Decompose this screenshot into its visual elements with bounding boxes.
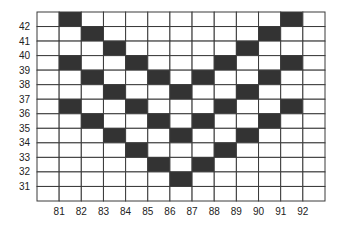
grid-cell-filled (59, 56, 81, 71)
grid-cell-empty (259, 12, 281, 27)
x-tick-label: 85 (142, 206, 154, 217)
grid-cell-empty (148, 172, 170, 187)
x-tick-label: 86 (164, 206, 176, 217)
grid-cell-empty (126, 128, 148, 143)
grid-cell-empty (170, 99, 192, 114)
grid-cell-empty (126, 85, 148, 100)
y-tick-label: 39 (19, 65, 31, 76)
grid-cell-empty (170, 114, 192, 129)
grid-cell-empty (37, 172, 59, 187)
grid-cell-empty (126, 157, 148, 172)
grid-cell-empty (259, 99, 281, 114)
grid-cells (37, 12, 325, 201)
grid-cell-filled (126, 56, 148, 71)
grid-cell-empty (236, 143, 258, 158)
grid-cell-empty (303, 27, 325, 42)
y-tick-label: 33 (19, 152, 31, 163)
grid-cell-empty (303, 143, 325, 158)
grid-cell-empty (37, 114, 59, 129)
grid-cell-empty (81, 128, 103, 143)
y-tick-label: 31 (19, 181, 31, 192)
x-axis-ticks: 818283848586878889909192 (54, 206, 309, 217)
grid-cell-empty (59, 186, 81, 201)
x-tick-label: 83 (98, 206, 110, 217)
grid-cell-empty (59, 157, 81, 172)
grid-cell-empty (148, 85, 170, 100)
grid-cell-empty (303, 186, 325, 201)
x-tick-label: 88 (209, 206, 221, 217)
grid-cell-filled (259, 70, 281, 85)
grid-cell-empty (214, 114, 236, 129)
grid-cell-filled (259, 114, 281, 129)
grid-cell-empty (192, 99, 214, 114)
grid-cell-filled (126, 99, 148, 114)
grid-cell-filled (148, 70, 170, 85)
grid-cell-empty (303, 157, 325, 172)
grid-cell-empty (236, 186, 258, 201)
grid-cell-filled (214, 99, 236, 114)
grid-cell-empty (259, 56, 281, 71)
grid-cell-empty (259, 128, 281, 143)
grid-cell-empty (81, 85, 103, 100)
grid-cell-filled (103, 128, 125, 143)
grid-cell-empty (259, 41, 281, 56)
grid-cell-filled (236, 41, 258, 56)
grid-cell-empty (259, 186, 281, 201)
grid-cell-empty (37, 128, 59, 143)
grid-cell-empty (103, 12, 125, 27)
grid-cell-filled (59, 12, 81, 27)
grid-cell-filled (281, 56, 303, 71)
grid-cell-empty (281, 85, 303, 100)
grid-cell-filled (103, 85, 125, 100)
grid-cell-empty (303, 41, 325, 56)
grid-cell-filled (170, 172, 192, 187)
grid-cell-empty (37, 27, 59, 42)
grid-cell-empty (214, 70, 236, 85)
grid-cell-empty (236, 70, 258, 85)
grid-cell-empty (103, 27, 125, 42)
grid-cell-empty (148, 12, 170, 27)
grid-cell-empty (236, 114, 258, 129)
y-tick-label: 34 (19, 137, 31, 148)
grid-cell-empty (59, 41, 81, 56)
x-tick-label: 87 (187, 206, 199, 217)
grid-cell-filled (81, 70, 103, 85)
grid-cell-empty (81, 157, 103, 172)
grid-cell-empty (303, 85, 325, 100)
grid-cell-empty (148, 143, 170, 158)
grid-cell-empty (59, 128, 81, 143)
grid-cell-filled (192, 70, 214, 85)
grid-cell-empty (192, 12, 214, 27)
grid-cell-filled (170, 85, 192, 100)
grid-cell-empty (81, 12, 103, 27)
x-tick-label: 84 (120, 206, 132, 217)
grid-cell-empty (259, 172, 281, 187)
grid-cell-empty (126, 186, 148, 201)
grid-cell-empty (103, 186, 125, 201)
grid-cell-filled (192, 157, 214, 172)
grid-cell-empty (126, 114, 148, 129)
grid-cell-empty (126, 41, 148, 56)
grid-cell-empty (281, 128, 303, 143)
grid-cell-empty (192, 186, 214, 201)
y-tick-label: 32 (19, 166, 31, 177)
grid-cell-filled (148, 157, 170, 172)
y-tick-label: 40 (19, 50, 31, 61)
grid-cell-empty (303, 114, 325, 129)
grid-cell-empty (236, 27, 258, 42)
x-tick-label: 90 (253, 206, 265, 217)
grid-cell-empty (192, 41, 214, 56)
y-tick-label: 37 (19, 94, 31, 105)
grid-cell-empty (126, 172, 148, 187)
grid-cell-empty (281, 186, 303, 201)
grid-cell-empty (303, 12, 325, 27)
grid-cell-empty (192, 143, 214, 158)
grid-cell-empty (37, 99, 59, 114)
grid-cell-empty (126, 12, 148, 27)
grid-cell-empty (281, 41, 303, 56)
grid-cell-empty (303, 99, 325, 114)
grid-cell-empty (170, 56, 192, 71)
grid-cell-filled (170, 128, 192, 143)
grid-cell-empty (259, 157, 281, 172)
grid-cell-empty (303, 128, 325, 143)
